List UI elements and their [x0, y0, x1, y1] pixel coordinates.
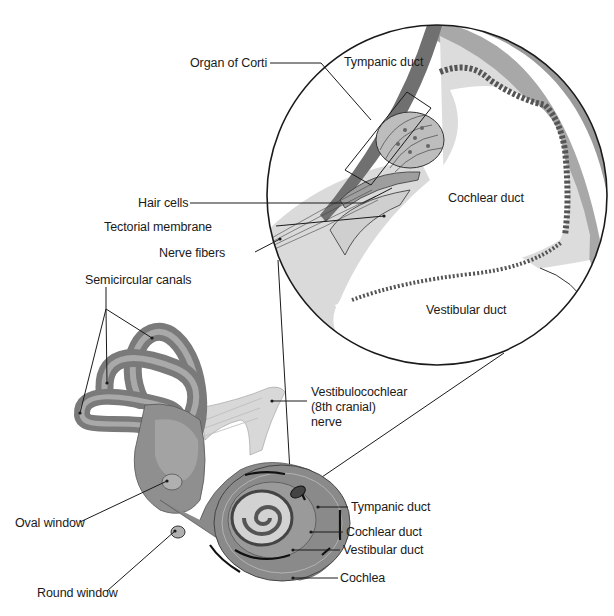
label-tympanic-duct: Tympanic duct	[351, 500, 430, 514]
label-vestibulocochlear-line2: (8th cranial)	[311, 400, 376, 414]
label-round-window: Round window	[37, 586, 118, 600]
label-semicircular-canals: Semicircular canals	[85, 273, 191, 287]
label-tectorial-membrane: Tectorial membrane	[104, 220, 212, 234]
label-cochlear-duct: Cochlear duct	[346, 525, 422, 539]
label-vestibulocochlear-line1: Vestibulocochlear	[311, 385, 407, 399]
diagram-artwork	[0, 0, 614, 616]
label-organ-of-corti: Organ of Corti	[190, 56, 267, 70]
label-nerve-fibers: Nerve fibers	[159, 246, 225, 260]
label-vestibulocochlear-line3: nerve	[311, 415, 342, 429]
label-magnified-vestibular-duct: Vestibular duct	[426, 303, 507, 317]
inner-ear-artwork	[82, 332, 350, 581]
label-magnified-tympanic-duct: Tympanic duct	[344, 55, 423, 69]
label-cochlea: Cochlea	[340, 571, 385, 585]
label-magnified-cochlear-duct: Cochlear duct	[448, 191, 524, 205]
label-hair-cells: Hair cells	[138, 196, 188, 210]
inner-ear-diagram: Organ of Corti Tympanic duct Cochlear du…	[0, 0, 614, 616]
round-window-shape	[171, 526, 185, 538]
label-oval-window: Oval window	[15, 516, 85, 530]
zoom-connector-left	[278, 260, 291, 490]
label-vestibular-duct: Vestibular duct	[343, 543, 424, 557]
